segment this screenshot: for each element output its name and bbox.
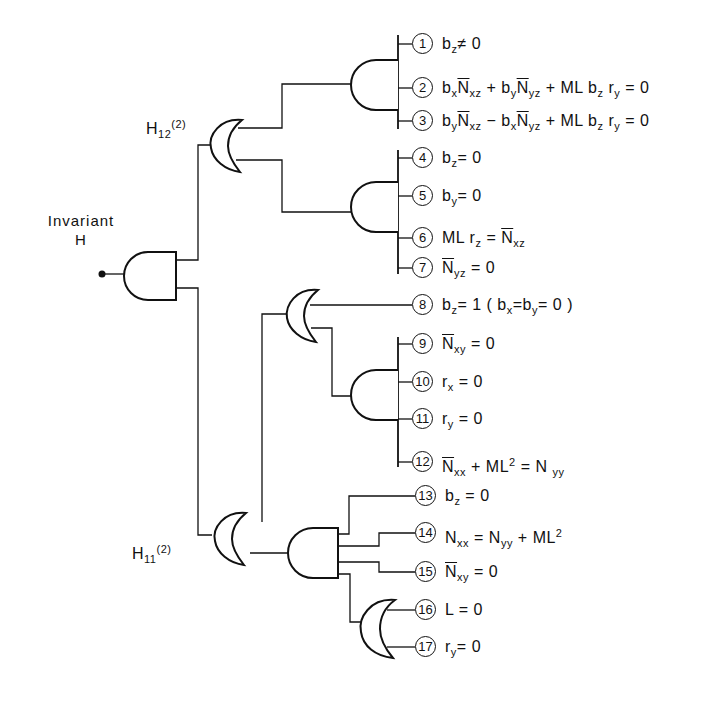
condition-15: Nxy = 0 — [445, 563, 498, 586]
circuit-wiring — [0, 0, 721, 701]
condition-number: 14 — [415, 522, 436, 543]
condition-number: 2 — [412, 77, 433, 98]
condition-12: Nxx + ML2 = N yy — [442, 453, 564, 481]
condition-number: 10 — [412, 371, 433, 392]
h11-sub: 11 — [144, 553, 156, 565]
h12-label: H12(2) — [146, 115, 186, 143]
condition-number: 11 — [412, 408, 433, 429]
condition-number: 13 — [415, 485, 436, 506]
or-gate-h12 — [211, 120, 242, 172]
condition-11: ry = 0 — [442, 410, 483, 433]
condition-number: 15 — [415, 561, 436, 582]
condition-16: L = 0 — [445, 601, 483, 619]
condition-6: ML rz = Nxz — [442, 229, 525, 252]
h11-main: H — [132, 545, 144, 562]
condition-number: 4 — [412, 147, 433, 168]
condition-number: 12 — [412, 451, 433, 472]
or-gate-16-17 — [361, 600, 395, 658]
condition-5: by= 0 — [442, 187, 482, 210]
and-gate-1 — [351, 60, 398, 110]
h11-sup: (2) — [156, 543, 171, 555]
root-title: Invariant H — [36, 211, 126, 249]
condition-number: 3 — [412, 110, 433, 131]
and-gate-2 — [351, 182, 398, 232]
or-gate-h11 — [215, 513, 246, 565]
and-gate-root — [124, 252, 176, 300]
condition-2: bxNxz + byNyz + ML bz ry = 0 — [442, 79, 649, 102]
condition-9: Nxy = 0 — [442, 335, 495, 358]
condition-number: 8 — [412, 294, 433, 315]
h11-label: H11(2) — [132, 540, 171, 568]
condition-number: 6 — [412, 227, 433, 248]
condition-10: rx = 0 — [442, 373, 483, 396]
condition-7: Nyz = 0 — [442, 259, 495, 282]
and-gate-4 — [288, 528, 338, 578]
root-title-line2: H — [36, 230, 126, 249]
root-title-line1: Invariant — [36, 211, 126, 230]
h12-sup: (2) — [171, 118, 186, 130]
condition-number: 5 — [412, 185, 433, 206]
condition-number: 1 — [412, 33, 433, 54]
condition-13: bz = 0 — [445, 487, 490, 510]
input-terminal-dot — [99, 271, 106, 278]
condition-4: bz= 0 — [442, 149, 482, 172]
and-gate-3 — [351, 370, 398, 420]
condition-number: 17 — [415, 636, 436, 657]
or-gate-8 — [287, 290, 318, 342]
condition-number: 7 — [412, 257, 433, 278]
condition-number: 16 — [415, 599, 436, 620]
condition-3: byNxz − bxNyz + ML bz ry = 0 — [442, 112, 649, 135]
h12-sub: 12 — [158, 128, 171, 140]
condition-1: bz≠ 0 — [442, 35, 481, 58]
condition-8: bz= 1 ( bx=by= 0 ) — [442, 296, 573, 319]
condition-number: 9 — [412, 333, 433, 354]
condition-17: ry= 0 — [445, 638, 481, 661]
condition-14: Nxx = Nyy + ML2 — [445, 524, 562, 552]
h12-main: H — [146, 120, 158, 137]
